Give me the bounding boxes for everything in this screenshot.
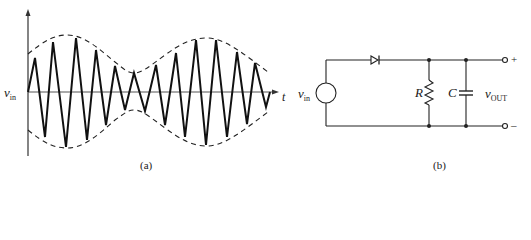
voltage-source-icon [316,83,336,103]
terminal-minus-label: – [511,120,517,131]
junction-dot [464,124,468,128]
terminal-plus-label: + [511,54,517,65]
diode-icon [371,56,379,65]
output-terminal-plus [503,58,508,63]
caption-b: (b) [433,160,446,171]
output-label-sub: OUT [491,94,507,103]
resistor-icon [425,80,433,105]
source-label: vin [298,87,310,103]
junction-dot [464,58,468,62]
capacitor-label: C [448,86,457,99]
source-label-sub: in [304,94,310,103]
output-label: vOUT [485,87,507,103]
junction-dot [427,124,431,128]
junction-dot [427,58,431,62]
output-terminal-minus [503,124,508,129]
resistor-label: R [415,86,423,99]
